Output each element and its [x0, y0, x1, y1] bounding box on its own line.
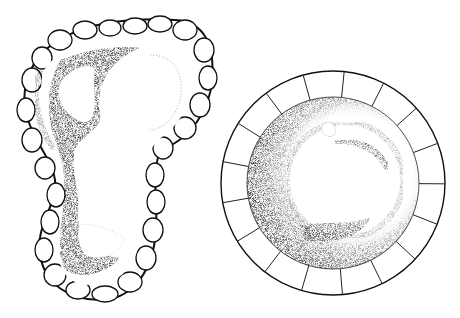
segmented-disc-specimen: [221, 71, 445, 295]
lobed-specimen: [17, 16, 217, 302]
illustration-canvas: [0, 0, 460, 318]
